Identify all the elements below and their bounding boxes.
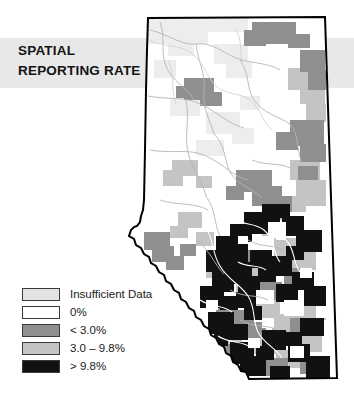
map-legend: Insufficient Data 0% < 3.0% 3.0 – 9.8% >… [22, 285, 152, 375]
map-title: SPATIAL REPORTING RATE [18, 41, 198, 81]
legend-label-insufficient-data: Insufficient Data [70, 288, 152, 301]
title-line-2: REPORTING RATE [18, 61, 198, 81]
legend-swatch-under-3 [22, 324, 60, 337]
title-line-1: SPATIAL [18, 41, 198, 61]
legend-item-insufficient-data: Insufficient Data [22, 285, 152, 303]
legend-swatch-insufficient-data [22, 288, 60, 301]
legend-label-over-9-8: > 9.8% [70, 360, 106, 373]
legend-swatch-over-9-8 [22, 360, 60, 373]
legend-swatch-zero [22, 306, 60, 319]
legend-label-3-to-9-8: 3.0 – 9.8% [70, 342, 125, 355]
legend-label-under-3: < 3.0% [70, 324, 106, 337]
spatial-reporting-rate-figure: SPATIAL REPORTING RATE Insufficient Data… [0, 0, 354, 402]
legend-swatch-3-to-9-8 [22, 342, 60, 355]
legend-item-3-to-9-8: 3.0 – 9.8% [22, 339, 152, 357]
legend-item-under-3: < 3.0% [22, 321, 152, 339]
legend-item-over-9-8: > 9.8% [22, 357, 152, 375]
legend-item-zero: 0% [22, 303, 152, 321]
legend-label-zero: 0% [70, 306, 87, 319]
